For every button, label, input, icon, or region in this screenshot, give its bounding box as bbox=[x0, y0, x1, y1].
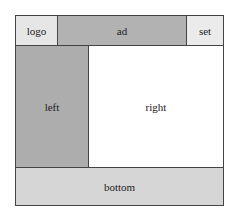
set-region: set bbox=[187, 16, 223, 46]
logo-label: logo bbox=[27, 25, 47, 37]
set-label: set bbox=[199, 25, 211, 37]
page-layout-diagram: logo ad set left right bottom bbox=[15, 15, 224, 206]
logo-region: logo bbox=[16, 16, 58, 46]
bottom-region: bottom bbox=[16, 168, 223, 205]
left-label: left bbox=[45, 101, 60, 113]
ad-region: ad bbox=[58, 16, 187, 46]
ad-label: ad bbox=[117, 25, 127, 37]
bottom-label: bottom bbox=[104, 181, 135, 193]
left-region: left bbox=[16, 46, 89, 168]
right-region: right bbox=[89, 46, 223, 168]
right-label: right bbox=[146, 101, 167, 113]
